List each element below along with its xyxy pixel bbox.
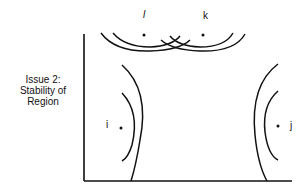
arc-j-inner [265,91,278,160]
issue-axis-label-line-1: Issue 2: [3,74,83,85]
point-l-dot [143,34,146,37]
point-i-label: i [106,120,108,130]
point-j-dot [277,125,280,128]
point-j-label: j [290,121,292,131]
issue-axis-label-line-2: Stability of [3,85,83,96]
point-k-label: k [203,11,208,21]
arc-i-outer [122,65,143,181]
arc-k-inner [170,33,233,47]
arc-i-inner [122,93,134,161]
arc-j-outer [254,64,278,181]
issue-axis-label-line-3: Region [3,96,83,107]
issue-axis-label: Issue 2: Stability of Region [3,74,83,107]
point-l-label: l [143,10,145,20]
point-i-dot [120,127,123,130]
point-k-dot [202,34,205,37]
